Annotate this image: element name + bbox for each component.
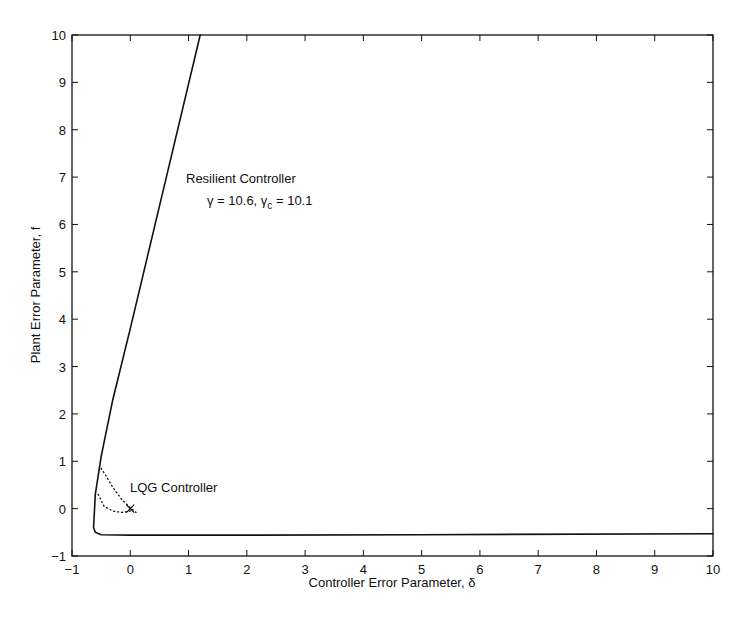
plot-area-frame <box>72 35 713 556</box>
y-tick-label: 9 <box>59 75 66 90</box>
y-tick-label: 10 <box>52 28 66 43</box>
y-tick-label: 7 <box>59 170 66 185</box>
x-tick-label: 7 <box>535 562 542 577</box>
y-tick-label: 3 <box>59 360 66 375</box>
annotation-gamma: γ = 10.6, γc = 10.1 <box>207 193 312 211</box>
x-tick-label: 1 <box>185 562 192 577</box>
x-tick-label: 10 <box>706 562 720 577</box>
x-tick-label: 9 <box>651 562 658 577</box>
x-tick-label: −1 <box>65 562 80 577</box>
chart: −1012345678910−1012345678910 Resilient C… <box>0 0 747 617</box>
lqg-dotted-curve <box>98 494 130 512</box>
x-tick-label: 2 <box>243 562 250 577</box>
y-tick-label: 1 <box>59 454 66 469</box>
annotation-resilient: Resilient Controller <box>186 171 296 186</box>
y-tick-label: 5 <box>59 265 66 280</box>
resilient-controller-curve <box>94 35 713 535</box>
y-tick-label: 8 <box>59 123 66 138</box>
data-series <box>94 35 713 535</box>
annotation-lqg: LQG Controller <box>130 480 218 495</box>
y-tick-label: 0 <box>59 502 66 517</box>
x-tick-label: 8 <box>593 562 600 577</box>
x-tick-label: 6 <box>476 562 483 577</box>
x-axis-label: Controller Error Parameter, δ <box>309 575 476 590</box>
y-axis-label: Plant Error Parameter, f <box>28 226 43 363</box>
y-tick-label: 4 <box>59 312 66 327</box>
y-tick-label: 6 <box>59 217 66 232</box>
y-tick-label: −1 <box>51 549 66 564</box>
x-tick-label: 0 <box>127 562 134 577</box>
y-tick-label: 2 <box>59 407 66 422</box>
